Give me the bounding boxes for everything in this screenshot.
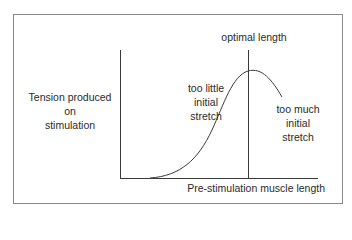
y-axis-label-line: Tension produced [20, 90, 120, 104]
label-line: stretch [180, 109, 232, 123]
label-line: stretch [268, 130, 328, 144]
y-axis-label: Tension produced on stimulation [20, 90, 120, 132]
y-axis-label-line: stimulation [20, 118, 120, 132]
label-line: initial [268, 116, 328, 130]
x-axis-label: Pre-stimulation muscle length [180, 181, 325, 195]
label-line: too little [180, 81, 232, 95]
label-line: initial [180, 95, 232, 109]
too-little-stretch-label: too little initial stretch [180, 81, 232, 123]
y-axis-label-line: on [20, 104, 120, 118]
too-much-stretch-label: too much initial stretch [268, 102, 328, 144]
label-line: too much [268, 102, 328, 116]
optimal-length-label: optimal length [214, 30, 294, 44]
